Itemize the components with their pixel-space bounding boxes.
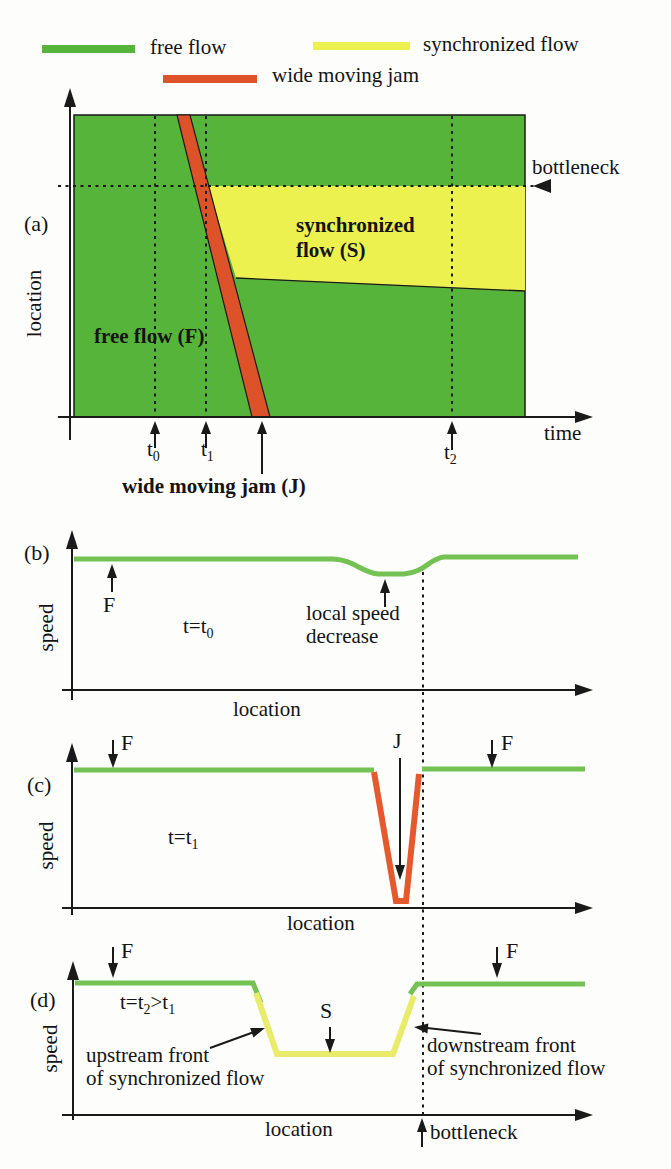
panel-b-dip-annotation-1: local speed: [306, 601, 400, 625]
panel-d-downstream-2: of synchronized flow: [427, 1056, 605, 1080]
panel-c-x-axis-label: location: [287, 912, 355, 935]
panel-c-y-axis-label: speed: [35, 811, 58, 881]
panel-a-x-axis-label: time: [544, 422, 581, 445]
t1-sub: 1: [207, 449, 214, 464]
panel-d-upstream-annotation: upstream frontof synchronized flow: [86, 1044, 264, 1090]
panel-d-s-label: S: [320, 999, 332, 1022]
panel-a-free-flow-label: free flow (F): [94, 325, 204, 348]
panel-b-f-arrowhead: [107, 564, 117, 578]
panel-a-sync-region-label-2: flow (S): [296, 239, 365, 262]
panel-c-time-sub: 1: [192, 837, 199, 852]
panel-d-bottleneck-arrowhead: [417, 1118, 427, 1132]
panel-d-free-flow-right: [410, 984, 585, 994]
panel-a-jam-arrowhead: [257, 421, 267, 434]
panel-b-speed-profile: [74, 557, 578, 574]
panel-a-y-axis-label: location: [23, 259, 46, 349]
panel-c-label: (c): [27, 773, 51, 796]
panel-a-t0-label: t0: [147, 438, 160, 468]
panel-d-downstream-annotation: downstream frontof synchronized flow: [427, 1034, 605, 1080]
panel-a-sync-region-label-1: synchronized: [296, 214, 415, 237]
panel-d-f-right-arrowhead: [492, 963, 502, 978]
panel-b-dip-arrowhead: [380, 579, 390, 593]
panel-b-y-axis-label: speed: [35, 593, 58, 663]
panel-a-jam-caption: wide moving jam (J): [122, 475, 306, 498]
panel-c-time-label: t=t1: [168, 826, 199, 856]
panel-d-time-label: t=t2>t1: [120, 991, 175, 1021]
panel-c-f-left-arrowhead: [108, 754, 118, 768]
panel-c-y-axis-arrowhead: [66, 743, 78, 762]
panel-c-f-right-arrowhead: [487, 754, 497, 768]
panel-d-f-left-label: F: [121, 939, 133, 962]
panel-d-f-left-arrowhead: [108, 963, 118, 978]
panel-d-downstream-1: downstream front: [427, 1033, 576, 1057]
legend-swatch-wide-moving-jam: [163, 75, 257, 83]
panel-d-synchronized-flow-profile: [256, 993, 414, 1054]
panel-d-downstream-arrowhead: [414, 1024, 428, 1034]
panel-a-bottleneck-arrowhead: [533, 179, 551, 193]
traffic-phases-figure: free flow synchronized flow wide moving …: [0, 0, 671, 1169]
t0-sub: 0: [153, 449, 160, 464]
panel-d-time-p1: t=t: [120, 990, 144, 1014]
panel-a-synchronized-flow-region: [208, 186, 525, 291]
panel-d-f-right-label: F: [506, 939, 518, 962]
legend-label-free-flow: free flow: [150, 36, 226, 59]
panel-d-upstream-1: upstream front: [86, 1043, 209, 1067]
panel-a-t2-arrowhead: [447, 421, 457, 434]
panel-d-y-axis-label: speed: [39, 1014, 62, 1084]
panel-a-t2-label: t2: [444, 441, 457, 471]
panel-a-t0-arrowhead: [150, 421, 160, 434]
panel-d-label: (d): [30, 988, 56, 1011]
panel-a-t1-arrowhead: [201, 421, 211, 434]
panel-d-y-axis-arrowhead: [67, 961, 79, 980]
panel-b-y-axis-arrowhead: [66, 530, 78, 549]
panel-a-y-axis-arrowhead: [64, 88, 76, 107]
panel-c-time-base: t=t: [168, 825, 192, 849]
panel-d-time-s1: 2: [144, 1002, 151, 1017]
t2-sub: 2: [450, 452, 457, 467]
panel-b-f-label: F: [103, 593, 115, 616]
panel-c-j-arrowhead: [395, 865, 405, 880]
panel-c-f-right-label: F: [501, 731, 513, 754]
panel-b-dip-annotation-2: decrease: [306, 624, 378, 648]
panel-a-bottleneck-label: bottleneck: [532, 156, 619, 179]
panel-b-time-sub: 0: [207, 626, 214, 641]
panel-a-label: (a): [24, 212, 48, 235]
panel-c-j-label: J: [393, 729, 402, 752]
panel-b-time-label: t=t0: [183, 615, 214, 645]
panel-b-time-base: t=t: [183, 614, 207, 638]
legend-swatch-free-flow: [42, 45, 135, 53]
panel-a-t1-label: t1: [201, 438, 214, 468]
panel-d-time-s2: 1: [168, 1002, 175, 1017]
panel-c-x-axis-arrowhead: [575, 902, 593, 914]
panel-b-label: (b): [24, 541, 50, 564]
legend-swatch-synchronized-flow: [313, 42, 410, 50]
panel-b-x-axis-label: location: [233, 698, 301, 721]
panel-b-dip-annotation: local speeddecrease: [306, 602, 400, 648]
panel-d-s-arrowhead: [325, 1039, 335, 1053]
panel-d-bottleneck-label: bottleneck: [430, 1121, 517, 1144]
panel-c-jam-speed-drop: [374, 772, 419, 901]
panel-b-x-axis-arrowhead: [575, 684, 593, 696]
panel-d-x-axis-label: location: [265, 1118, 333, 1141]
legend-label-synchronized-flow: synchronized flow: [423, 33, 579, 56]
legend-label-wide-moving-jam: wide moving jam: [272, 64, 419, 87]
panel-d-x-axis-arrowhead: [575, 1109, 593, 1121]
panel-c-f-left-label: F: [121, 731, 133, 754]
panel-d-time-p2: >t: [151, 990, 169, 1014]
panel-d-upstream-arrowhead: [250, 1028, 265, 1038]
panel-d-upstream-2: of synchronized flow: [86, 1066, 264, 1090]
